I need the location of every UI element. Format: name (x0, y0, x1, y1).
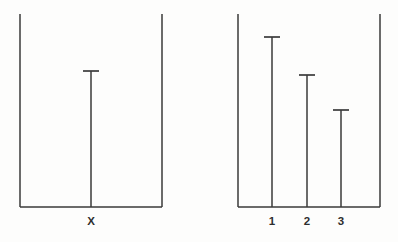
left-panel-bar-x (83, 71, 99, 207)
bar-diagram-svg: X 1 2 3 (0, 0, 398, 242)
left-panel: X (20, 14, 162, 227)
axis-label-1: 1 (269, 215, 276, 227)
right-panel-frame (238, 14, 380, 207)
right-panel-bar-1 (264, 37, 280, 207)
right-panel-bar-2 (299, 75, 315, 207)
axis-label-2: 2 (304, 215, 310, 227)
figure-root: X 1 2 3 (0, 0, 398, 242)
axis-label-3: 3 (338, 215, 344, 227)
right-panel-bar-3 (333, 110, 349, 207)
axis-label-x: X (87, 215, 95, 227)
right-panel: 1 2 3 (238, 14, 380, 227)
